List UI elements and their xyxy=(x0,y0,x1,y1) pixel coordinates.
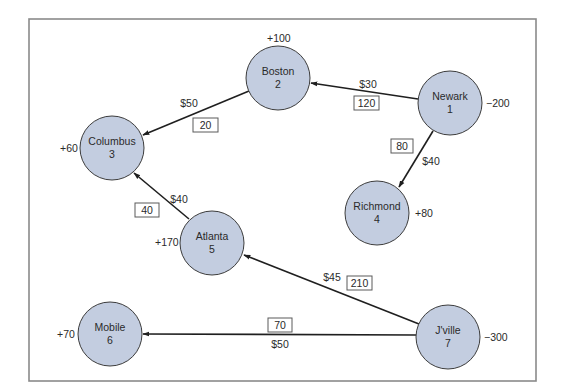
node-name: Columbus xyxy=(88,135,135,147)
node-name: Richmond xyxy=(353,200,400,212)
cost-label: $50 xyxy=(180,97,198,109)
node-newark: Newark 1 −200 xyxy=(418,71,510,135)
flow-label: 40 xyxy=(141,204,153,216)
node-atlanta: Atlanta 5 +170 xyxy=(155,211,244,275)
node-jville: J'ville 7 −300 xyxy=(416,305,508,369)
node-boston: Boston 2 +100 xyxy=(246,32,310,110)
cost-label: $30 xyxy=(359,78,377,90)
node-supply: +170 xyxy=(155,236,179,248)
node-supply: −300 xyxy=(484,331,508,343)
node-number: 2 xyxy=(275,78,281,90)
node-supply: +70 xyxy=(57,328,75,340)
edge-jville-mobile xyxy=(143,334,416,335)
node-supply: +100 xyxy=(267,32,291,44)
node-name: J'ville xyxy=(435,324,461,336)
node-supply: +60 xyxy=(60,142,78,154)
node-richmond: Richmond 4 +80 xyxy=(345,181,433,245)
flow-label: 70 xyxy=(274,319,286,331)
node-mobile: Mobile 6 +70 xyxy=(57,302,142,366)
cost-label: $50 xyxy=(271,338,289,350)
node-number: 3 xyxy=(109,148,115,160)
node-columbus: Columbus 3 +60 xyxy=(60,116,144,180)
node-supply: −200 xyxy=(486,97,510,109)
edge-jville-atlanta xyxy=(244,255,419,324)
cost-label: $40 xyxy=(422,155,440,167)
node-number: 6 xyxy=(107,334,113,346)
node-number: 5 xyxy=(209,243,215,255)
flow-label: 120 xyxy=(358,97,376,109)
node-name: Mobile xyxy=(95,321,126,333)
node-supply: +80 xyxy=(415,207,433,219)
node-name: Boston xyxy=(262,65,295,77)
cost-label: $40 xyxy=(170,193,188,205)
node-name: Atlanta xyxy=(196,230,229,242)
flow-label: 210 xyxy=(351,277,369,289)
flow-label: 20 xyxy=(200,119,212,131)
node-number: 7 xyxy=(445,337,451,349)
node-number: 1 xyxy=(447,103,453,115)
network-diagram: $30 120 80 $40 $50 20 $40 40 $45 210 70 … xyxy=(0,0,562,389)
node-number: 4 xyxy=(374,213,380,225)
cost-label: $45 xyxy=(323,271,341,283)
flow-label: 80 xyxy=(396,140,408,152)
node-name: Newark xyxy=(432,90,468,102)
